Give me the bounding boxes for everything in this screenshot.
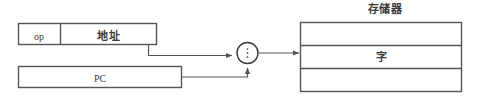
instruction-op-field-label: op [18, 32, 60, 42]
diagram-canvas: 存储器 op 地址 PC 字 [0, 0, 478, 102]
instruction-address-field-label: 地址 [60, 31, 157, 42]
address-to-selector-connector [149, 45, 233, 56]
memory-word-label: 字 [300, 52, 462, 63]
program-counter-label: PC [18, 74, 182, 84]
pc-to-selector-connector [182, 68, 248, 77]
selector-node [237, 43, 258, 64]
memory-title-label: 存储器 [330, 4, 440, 15]
diagram-vector-layer [0, 0, 478, 102]
